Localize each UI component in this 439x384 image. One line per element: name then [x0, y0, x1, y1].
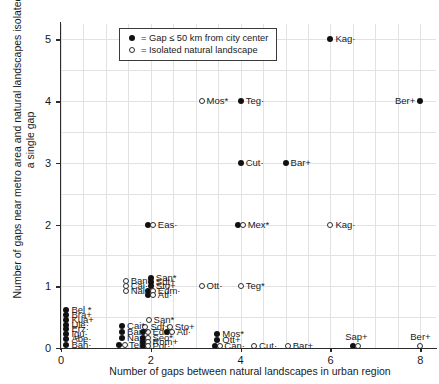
gridline-vertical — [83, 24, 84, 348]
gridline-vertical — [330, 24, 331, 348]
plot-area: Kag·Ber+Mos*Teg·Cut·Bar+Eas·Mex*Kag·Ban*… — [61, 24, 436, 348]
gridline-horizontal — [61, 255, 436, 256]
data-point-filled — [417, 98, 423, 104]
gridline-horizontal — [61, 194, 436, 195]
data-point-filled — [119, 329, 125, 335]
y-tick-label: 3 — [27, 157, 51, 169]
x-tick-mark — [151, 348, 152, 352]
y-tick-mark — [56, 286, 60, 287]
x-axis-line — [60, 348, 437, 349]
data-point-filled — [119, 323, 125, 329]
point-label: Mex* — [248, 220, 270, 230]
data-point-filled — [283, 160, 289, 166]
point-label: Cut· — [246, 158, 264, 168]
y-tick-mark — [56, 163, 60, 164]
y-axis-line — [60, 22, 61, 350]
legend-label-filled: = Gap ≤ 50 km from city center — [141, 33, 268, 43]
gridlines — [61, 24, 436, 348]
gridline-vertical — [308, 24, 309, 348]
data-point-open — [238, 283, 244, 289]
y-tick-label: 1 — [27, 280, 51, 292]
x-tick-mark — [61, 348, 62, 352]
data-point-open — [123, 288, 129, 294]
gridline-vertical — [286, 24, 287, 348]
gridline-vertical — [128, 24, 129, 348]
gridline-horizontal — [61, 132, 436, 133]
point-label: Ott· — [207, 282, 223, 292]
point-label: Teg* — [246, 282, 265, 292]
legend-box: = Gap ≤ 50 km from city center = Isolate… — [119, 28, 277, 61]
data-point-filled — [63, 342, 69, 348]
y-tick-label: 5 — [27, 33, 51, 45]
data-point-open — [199, 98, 205, 104]
gridline-vertical — [151, 24, 152, 348]
data-point-open — [199, 283, 205, 289]
data-point-filled — [238, 98, 244, 104]
point-label: Atl· — [177, 327, 191, 337]
y-tick-mark — [56, 225, 60, 226]
y-tick-label: 4 — [27, 95, 51, 107]
point-label: Mos* — [207, 96, 229, 106]
point-label: Eas· — [158, 220, 178, 230]
data-point-open — [240, 222, 246, 228]
y-tick-mark — [56, 348, 60, 349]
y-tick-label: 2 — [27, 219, 51, 231]
chart-container: Number of gaps near metro area and natur… — [0, 0, 439, 384]
legend-item-open: = Isolated natural landscape — [126, 44, 270, 56]
gridline-vertical — [420, 24, 421, 348]
data-point-filled — [119, 335, 125, 341]
x-tick-mark — [420, 348, 421, 352]
gridline-vertical — [106, 24, 107, 348]
gridline-vertical — [263, 24, 264, 348]
data-point-filled — [327, 36, 333, 42]
x-tick-mark — [330, 348, 331, 352]
gridline-vertical — [398, 24, 399, 348]
point-label: Atl· — [158, 290, 172, 300]
y-tick-mark — [56, 39, 60, 40]
x-tick-label: 0 — [58, 354, 64, 366]
y-tick-label: 0 — [27, 342, 51, 354]
y-tick-mark — [56, 101, 60, 102]
gridline-vertical — [353, 24, 354, 348]
gridline-vertical — [196, 24, 197, 348]
legend-item-filled: = Gap ≤ 50 km from city center — [126, 32, 270, 44]
point-label: Ber+ — [410, 332, 430, 342]
x-tick-label: 4 — [238, 354, 244, 366]
x-tick-mark — [241, 348, 242, 352]
gridline-vertical — [375, 24, 376, 348]
point-label: Teg· — [246, 96, 264, 106]
gridline-vertical — [173, 24, 174, 348]
legend-label-open: = Isolated natural landscape — [141, 45, 258, 55]
data-point-open — [150, 292, 156, 298]
open-circle-icon — [126, 47, 138, 53]
x-tick-label: 2 — [148, 354, 154, 366]
point-label: Kag· — [335, 35, 355, 45]
data-point-filled — [238, 160, 244, 166]
gridline-horizontal — [61, 70, 436, 71]
data-point-open — [150, 222, 156, 228]
point-label: Kag· — [335, 220, 355, 230]
data-point-open — [122, 342, 128, 348]
gridline-vertical — [241, 24, 242, 348]
gridline-vertical — [218, 24, 219, 348]
point-label: Sap+ — [345, 332, 367, 342]
x-axis-title: Number of gaps between natural landscape… — [61, 365, 439, 377]
point-label: Bar+ — [291, 158, 311, 168]
filled-circle-icon — [126, 35, 138, 41]
gridline-horizontal — [61, 317, 436, 318]
point-label: Ber+ — [395, 96, 415, 106]
x-tick-label: 6 — [327, 354, 333, 366]
data-point-open — [327, 222, 333, 228]
x-tick-label: 8 — [417, 354, 423, 366]
